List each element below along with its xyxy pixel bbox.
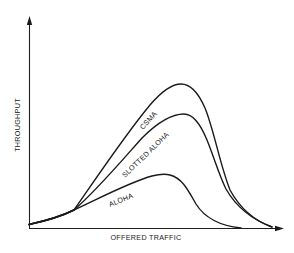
y-axis-label: THROUGHPUT [13, 98, 22, 152]
label-csma: CSMA [138, 109, 159, 131]
throughput-chart: CSMA SLOTTED ALOHA ALOHA OFFERED TRAFFIC… [0, 0, 294, 253]
curve-aloha [29, 174, 241, 228]
x-axis-label: OFFERED TRAFFIC [110, 233, 181, 242]
y-axis-arrow-icon [27, 16, 32, 25]
curve-slotted-aloha [29, 114, 272, 227]
label-aloha: ALOHA [107, 191, 134, 209]
x-axis-arrow-icon [275, 226, 284, 231]
